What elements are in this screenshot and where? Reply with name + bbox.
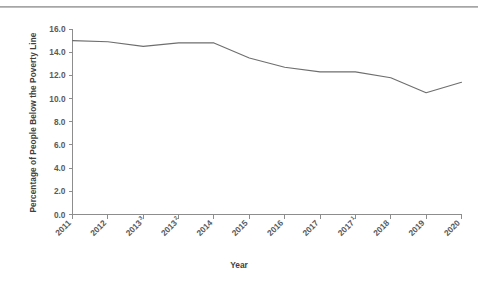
chart-figure: Percentage of People Below the Poverty L… [0,0,478,283]
svg-text:2018: 2018 [371,218,391,238]
x-tick-label: 2015 [230,218,250,238]
svg-text:2020: 2020 [442,218,462,238]
x-tick-label: 2016 [265,218,285,238]
x-tick-label: 2018 [371,218,391,238]
x-tick-label: 2017 [300,218,320,238]
svg-text:2016: 2016 [265,218,285,238]
x-tick-label: 2011 [53,218,73,238]
svg-text:2012: 2012 [88,218,108,238]
y-tick-label: 6.0 [54,140,66,150]
data-series-line [73,41,462,93]
y-tick-label: 14.0 [49,47,66,57]
x-tick-label: 2020 [442,218,462,238]
y-tick-label: 2.0 [54,186,66,196]
y-tick-label: 10.0 [49,94,66,104]
svg-text:2015: 2015 [230,218,250,238]
y-tick-label: 12.0 [49,70,66,80]
x-tick-label: 2012 [88,218,108,238]
svg-text:2019: 2019 [406,218,426,238]
svg-text:2017: 2017 [300,218,320,238]
svg-text:2011: 2011 [53,218,73,238]
y-tick-label: 8.0 [54,117,66,127]
y-tick-label: 4.0 [54,163,66,173]
y-tick-label: 0.0 [54,210,66,220]
x-tick-label: 2019 [406,218,426,238]
x-tick-label: 2014 [194,218,214,238]
svg-text:2014: 2014 [194,218,214,238]
y-tick-label: 16.0 [49,24,66,34]
line-chart-plot: 0.02.04.06.08.010.012.014.016.0201120122… [0,0,478,283]
x-axis-title: Year [0,260,478,270]
